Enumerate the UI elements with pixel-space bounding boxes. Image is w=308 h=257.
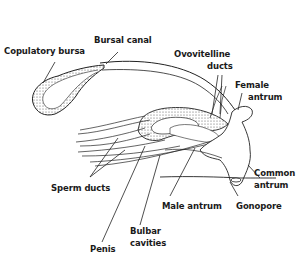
anatomy-diagram: Copulatory bursa Bursal canal Ovovitelli… (0, 0, 308, 257)
label-gonopore: Gonopore (236, 201, 282, 211)
label-bulbar: Bulbar (130, 226, 161, 236)
diagram-drawing (0, 0, 308, 257)
gonopore-shape (231, 178, 241, 182)
label-bulbar-cavities: cavities (130, 238, 166, 248)
label-penis: Penis (90, 244, 116, 254)
label-copulatory-bursa: Copulatory bursa (4, 46, 85, 56)
label-common: Common (254, 168, 295, 178)
label-ovovitelline: Ovovitelline (174, 49, 230, 59)
copulatory-bursa-shape (32, 65, 104, 115)
label-ducts: ducts (207, 61, 233, 71)
label-sperm-ducts: Sperm ducts (51, 183, 110, 193)
label-female: Female (235, 80, 269, 90)
label-male-antrum: Male antrum (162, 201, 222, 211)
label-female-antrum: antrum (248, 92, 282, 102)
penis-bulb-shape (138, 108, 228, 143)
label-bursal-canal: Bursal canal (94, 35, 152, 45)
label-common-antrum: antrum (254, 180, 288, 190)
